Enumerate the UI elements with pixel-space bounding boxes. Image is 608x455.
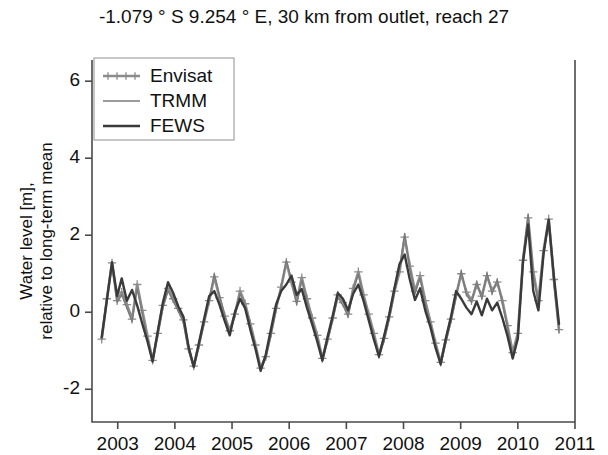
legend-label: TRMM [150, 90, 207, 111]
x-tick-label: 2004 [154, 433, 197, 454]
y-tick-label: 6 [69, 69, 80, 90]
y-axis-ticks: -20246 [63, 69, 92, 398]
x-tick-label: 2007 [325, 433, 367, 454]
x-tick-label: 2003 [97, 433, 139, 454]
x-tick-label: 2005 [211, 433, 253, 454]
series-group [98, 214, 564, 373]
y-tick-label: 0 [69, 300, 80, 321]
y-tick-label: 2 [69, 223, 80, 244]
x-tick-label: 2010 [497, 433, 539, 454]
x-axis-ticks: 200320042005200620072008200920102011 [97, 422, 596, 454]
y-tick-label: -2 [63, 377, 80, 398]
legend-label: Envisat [150, 65, 213, 86]
chart-figure: -1.079 ° S 9.254 ° E, 30 km from outlet,… [0, 0, 608, 455]
legend: EnvisatTRMMFEWS [94, 58, 234, 140]
x-tick-label: 2009 [440, 433, 482, 454]
y-axis-title: Water level [m],relative to long-term me… [17, 142, 56, 339]
y-axis-title-line: Water level [m], [17, 182, 36, 299]
series-line-envisat [102, 218, 559, 368]
y-axis-title-line: relative to long-term mean [37, 142, 56, 339]
x-tick-label: 2006 [268, 433, 310, 454]
x-tick-label: 2011 [555, 433, 596, 454]
plot-canvas[interactable]: -202462003200420052006200720082009201020… [0, 0, 608, 455]
legend-label: FEWS [150, 115, 205, 136]
x-tick-label: 2008 [382, 433, 424, 454]
y-tick-label: 4 [69, 146, 80, 167]
